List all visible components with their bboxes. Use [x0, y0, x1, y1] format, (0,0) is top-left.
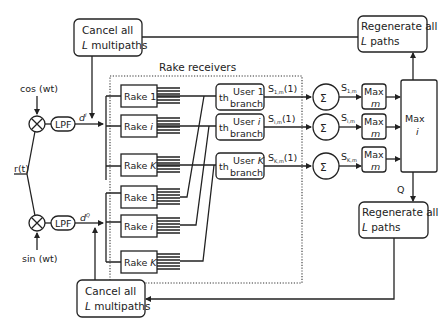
cos-label: cos (wt) [20, 83, 58, 94]
lower-rake-outputs [180, 96, 214, 261]
svg-text:Max: Max [364, 86, 384, 97]
s-i-m-1-label: Si,m(1) [268, 113, 295, 125]
lower-mixer [29, 215, 45, 231]
d-i-label: dI [79, 112, 87, 123]
svg-text:Regenerate all: Regenerate all [361, 20, 437, 32]
svg-text:L paths: L paths [362, 221, 401, 233]
svg-text:Σ: Σ [320, 122, 327, 134]
summer-k: Σ [313, 153, 339, 179]
svg-text:Regenerate all: Regenerate all [362, 206, 438, 218]
q-label: Q [397, 184, 404, 195]
svg-text:m: m [371, 128, 380, 139]
svg-text:th: th [219, 161, 229, 172]
upper-lpf: LPF [51, 117, 75, 131]
cancel-multipaths-top-block: Cancel all L multipaths [74, 19, 147, 56]
sin-label: sin (wt) [22, 253, 58, 264]
svg-text:branch: branch [230, 167, 263, 178]
svg-text:Rake i: Rake i [124, 221, 153, 232]
svg-text:m: m [371, 98, 380, 109]
rake-lower-i: Rake i [121, 215, 180, 237]
summer-i: Σ [313, 114, 339, 140]
svg-text:th: th [219, 92, 229, 103]
svg-text:Σ: Σ [320, 92, 327, 104]
lower-lpf: LPF [51, 216, 75, 230]
svg-text:L paths: L paths [361, 35, 400, 47]
signal-to-lower-mixer [27, 174, 36, 221]
svg-text:User K: User K [233, 155, 265, 166]
user-k-branch: th User K branch [216, 153, 265, 179]
user-i-branch: th User i branch [216, 114, 264, 140]
svg-text:L multipaths: L multipaths [85, 300, 150, 312]
svg-text:branch: branch [230, 98, 263, 109]
svg-text:User 1: User 1 [233, 86, 264, 97]
s-1-m-1-label: S1,m(1) [268, 83, 297, 95]
svg-text:branch: branch [230, 128, 263, 139]
rake-receiver-diagram: Rake receivers Cancel all L multipaths R… [0, 0, 441, 329]
svg-text:Rake K: Rake K [124, 160, 157, 171]
svg-text:Rake K: Rake K [124, 257, 157, 268]
user-1-branch: th User 1 branch [216, 84, 264, 110]
svg-text:m: m [371, 161, 380, 172]
max-i-block: Max i [401, 80, 437, 172]
rake-receivers-title: Rake receivers [159, 61, 236, 73]
max-m-k: Max m [362, 147, 386, 172]
upper-mixer [29, 116, 45, 132]
svg-text:Max: Max [405, 113, 425, 124]
svg-text:Cancel all: Cancel all [85, 285, 136, 297]
rake-lower-k: Rake K [121, 251, 180, 273]
max-m-1: Max m [362, 84, 386, 109]
svg-text:Rake i: Rake i [124, 121, 153, 132]
svg-text:LPF: LPF [55, 218, 72, 229]
svg-text:User i: User i [233, 116, 261, 127]
svg-text:Rake 1: Rake 1 [124, 192, 156, 203]
upper-bus [106, 96, 121, 180]
cancel-multipaths-bottom-block: Cancel all L multipaths [77, 280, 150, 317]
rake-lower-1: Rake 1 [121, 186, 180, 208]
lower-bus [106, 193, 121, 262]
s-1-m-label: S1,m [341, 82, 357, 94]
regenerate-paths-top-block: Regenerate all L paths [358, 16, 437, 52]
s-k-m-label: SK,m [341, 151, 357, 163]
max-m-i: Max m [362, 114, 386, 139]
svg-text:Rake 1: Rake 1 [124, 91, 156, 102]
s-k-m-1-label: SK,m(1) [268, 152, 297, 164]
signal-to-upper-mixer [27, 126, 36, 174]
regen-bottom-to-cancel-bottom [146, 238, 394, 299]
svg-text:Σ: Σ [320, 161, 327, 173]
regenerate-paths-bottom-block: Regenerate all L paths [359, 202, 438, 238]
svg-text:th: th [219, 122, 229, 133]
svg-text:Cancel all: Cancel all [82, 24, 133, 36]
svg-text:LPF: LPF [55, 119, 72, 130]
s-i-m-label: Si,m [341, 112, 355, 124]
svg-text:Max: Max [364, 116, 384, 127]
d-q-label: dQ [80, 212, 90, 223]
summer-1: Σ [313, 84, 339, 110]
svg-text:Max: Max [364, 149, 384, 160]
svg-text:L multipaths: L multipaths [82, 39, 147, 51]
svg-text:i: i [416, 126, 419, 137]
